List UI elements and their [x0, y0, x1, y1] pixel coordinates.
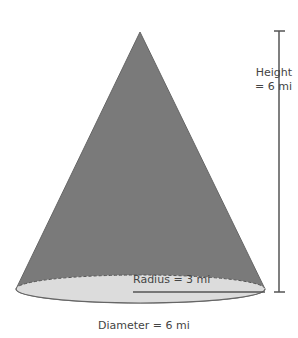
- diameter-label: Diameter = 6 mi: [98, 319, 190, 333]
- cone-body: [16, 32, 265, 303]
- height-label: Height = 6 mi: [248, 66, 292, 94]
- radius-label: Radius = 3 mi: [133, 273, 210, 287]
- cone-diagram: [0, 0, 298, 338]
- height-label-line2: = 6 mi: [248, 80, 292, 94]
- height-label-line1: Height: [248, 66, 292, 80]
